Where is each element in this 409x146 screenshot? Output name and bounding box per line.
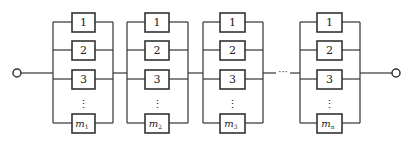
component-label: 2 xyxy=(154,44,161,57)
component-label-m: m1 xyxy=(75,118,88,130)
component-label: 3 xyxy=(326,73,333,86)
parallel-group-3: 1 2 3 ⋮ m3 xyxy=(203,13,263,133)
vertical-ellipsis: ⋮ xyxy=(324,98,335,111)
parallel-group-2: 1 2 3 ⋮ m2 xyxy=(127,13,188,133)
component-label: 3 xyxy=(229,73,236,86)
component-label: 1 xyxy=(80,16,87,29)
component-label-m: m3 xyxy=(224,118,237,130)
parallel-group-1: 1 2 3 ⋮ m1 xyxy=(53,13,113,133)
component-label: 2 xyxy=(80,44,87,57)
component-label-m: mn xyxy=(321,118,334,130)
parallel-group-n: 1 2 3 ⋮ mn xyxy=(300,13,360,133)
vertical-ellipsis: ⋮ xyxy=(227,98,238,111)
vertical-ellipsis: ⋮ xyxy=(78,98,89,111)
component-label: 3 xyxy=(80,73,87,86)
input-terminal-node xyxy=(13,69,21,77)
vertical-ellipsis: ⋮ xyxy=(152,98,163,111)
output-terminal-node xyxy=(392,69,400,77)
reliability-diagram: 1 2 3 ⋮ m1 1 2 3 ⋮ m2 1 xyxy=(0,0,409,146)
component-label-m: m2 xyxy=(149,118,162,130)
component-label: 2 xyxy=(229,44,236,57)
component-label: 1 xyxy=(326,16,333,29)
horizontal-ellipsis: ··· xyxy=(278,66,288,77)
component-label: 2 xyxy=(326,44,333,57)
component-label: 3 xyxy=(154,73,161,86)
component-label: 1 xyxy=(154,16,161,29)
component-label: 1 xyxy=(229,16,236,29)
